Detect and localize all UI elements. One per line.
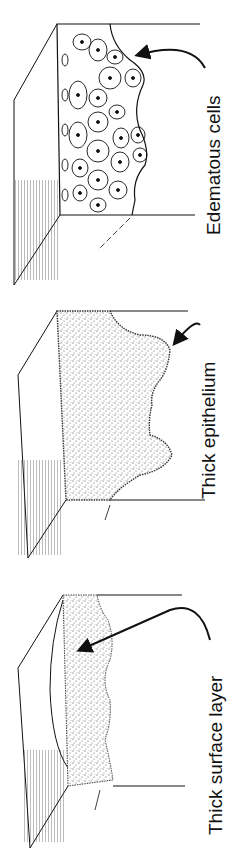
epithelium-layer (57, 311, 172, 500)
diagram-canvas: Edematous cells Thick epithelium Thick s… (0, 0, 238, 863)
arrow-edematous (138, 50, 205, 68)
hatched-side (18, 460, 63, 555)
panel-thick-surface-layer: Thick surface layer (18, 595, 226, 848)
cell-layer (57, 24, 147, 215)
arrow-thick-epithelium (175, 323, 200, 343)
depth-line (105, 505, 110, 520)
label-edematous-cells: Edematous cells (203, 96, 224, 235)
hatched-side (14, 180, 59, 280)
label-thick-epithelium: Thick epithelium (198, 362, 219, 499)
label-thick-surface-layer: Thick surface layer (205, 675, 226, 835)
hatched-side (22, 750, 66, 842)
surface-layer (63, 595, 113, 786)
panel-edematous-cells: Edematous cells (14, 24, 224, 285)
panel-thick-epithelium: Thick epithelium (18, 311, 219, 558)
depth-line (95, 790, 100, 810)
depth-line (98, 218, 130, 250)
